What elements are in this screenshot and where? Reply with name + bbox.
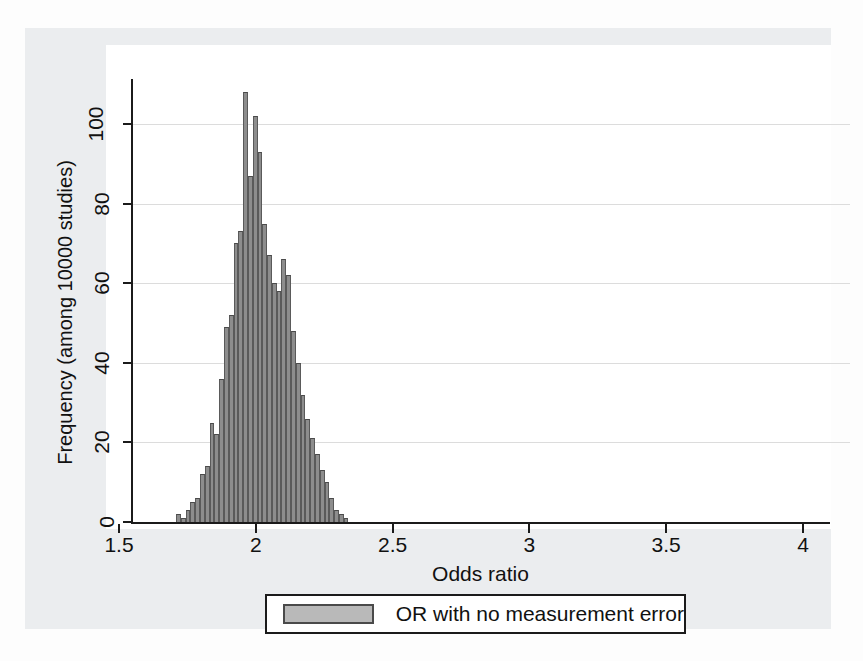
y-axis-title: Frequency (among 10000 studies) <box>54 133 77 493</box>
legend-label-or-no-error: OR with no measurement error <box>396 602 684 626</box>
histogram-bars <box>25 28 831 629</box>
x-axis-title: Odds ratio <box>131 562 830 586</box>
figure-panel: 020406080100 1.522.533.54 Frequency (amo… <box>25 28 831 629</box>
legend-swatch-or-no-error <box>283 604 374 624</box>
histogram-bar <box>344 518 349 522</box>
legend-box: OR with no measurement error <box>265 594 686 634</box>
